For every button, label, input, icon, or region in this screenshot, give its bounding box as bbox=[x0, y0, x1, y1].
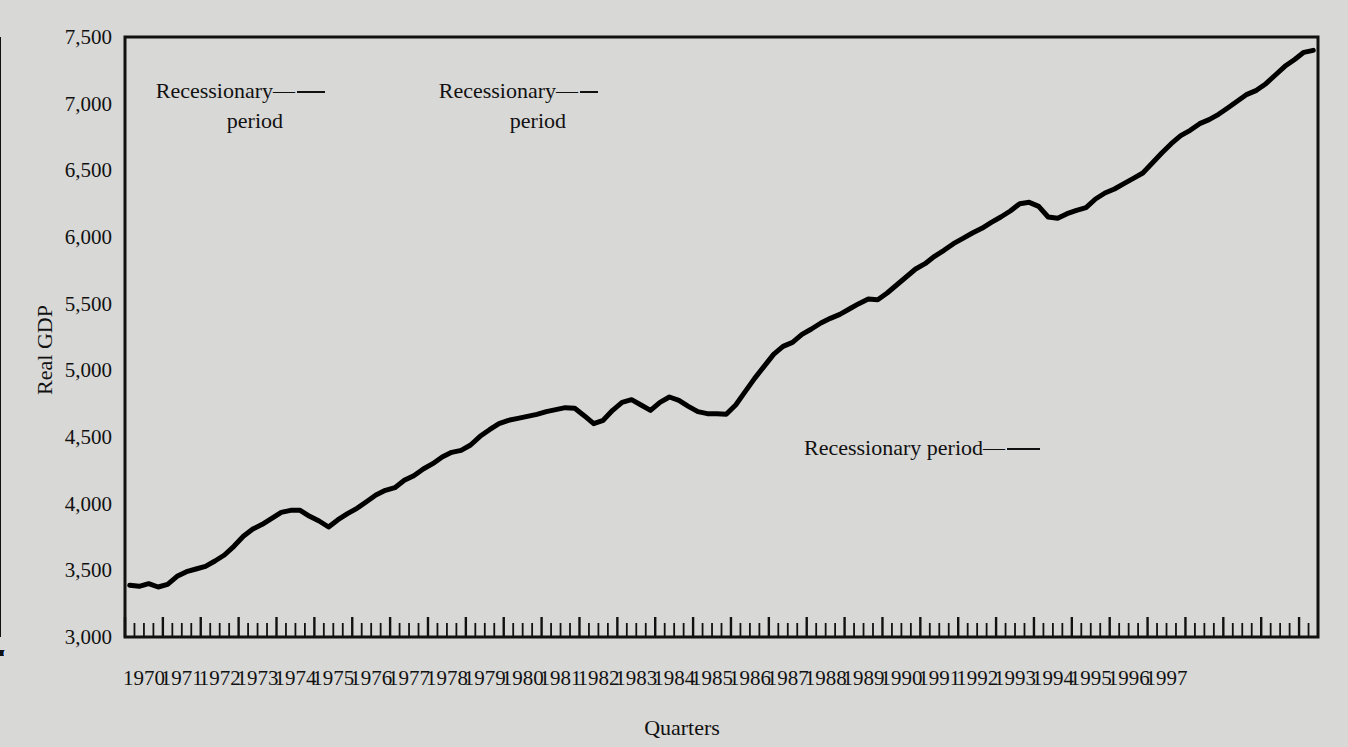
x-year-label: 1981 bbox=[540, 666, 582, 690]
recession-annotations: Recessionary—periodRecessionary—periodRe… bbox=[156, 78, 1040, 460]
x-year-label: 1975 bbox=[312, 666, 354, 690]
y-axis-ticks: 3,0003,5004,0004,5005,0005,5006,0006,500… bbox=[65, 25, 112, 649]
y-tick-label: 4,000 bbox=[65, 492, 112, 516]
x-year-label: 1979 bbox=[464, 666, 506, 690]
recession-annotation-line1: Recessionary— bbox=[439, 78, 579, 103]
recession-annotation-line1: Recessionary period— bbox=[804, 435, 1006, 460]
x-axis-ticks bbox=[125, 617, 1309, 637]
x-year-label: 1978 bbox=[426, 666, 468, 690]
gdp-data-line bbox=[130, 50, 1314, 587]
x-year-label: 1995 bbox=[1070, 666, 1112, 690]
recession-annotation-line2: period bbox=[227, 108, 283, 133]
y-tick-label: 5,000 bbox=[65, 358, 112, 382]
x-year-label: 1994 bbox=[1032, 666, 1075, 690]
x-year-label: 1997 bbox=[1146, 666, 1188, 690]
x-year-label: 1993 bbox=[994, 666, 1036, 690]
x-year-label: 1982 bbox=[577, 666, 619, 690]
x-year-label: 1971 bbox=[161, 666, 203, 690]
recession-annotation-line2: period bbox=[510, 108, 566, 133]
y-tick-label: 4,500 bbox=[65, 425, 112, 449]
x-year-label: 1987 bbox=[767, 666, 809, 690]
y-tick-label: 6,000 bbox=[65, 225, 112, 249]
y-tick-label: 7,500 bbox=[65, 25, 112, 49]
chart-figure: 3,0003,5004,0004,5005,0005,5006,0006,500… bbox=[0, 0, 1348, 747]
x-year-label: 1972 bbox=[199, 666, 241, 690]
x-axis-year-labels: 1970197119721973197419751976197719781979… bbox=[123, 666, 1188, 690]
y-tick-label: 6,500 bbox=[65, 158, 112, 182]
quarter-marks: IIIIIIIVIIIIIIIVIIIIIIVIIIIIIIVIIIIIIIVI… bbox=[0, 649, 4, 658]
gdp-line-path bbox=[130, 50, 1314, 587]
x-year-label: 1986 bbox=[729, 666, 771, 690]
x-axis-title: Quarters bbox=[644, 715, 720, 740]
x-year-label: 1974 bbox=[274, 666, 317, 690]
y-tick-label: 3,000 bbox=[65, 625, 112, 649]
recession-annotation-line1: Recessionary— bbox=[156, 78, 296, 103]
x-year-label: 1976 bbox=[350, 666, 392, 690]
x-year-label: 1980 bbox=[502, 666, 544, 690]
x-year-label: 1973 bbox=[237, 666, 279, 690]
x-year-label: 1984 bbox=[653, 666, 696, 690]
y-tick-label: 3,500 bbox=[65, 558, 112, 582]
x-year-label: 1992 bbox=[956, 666, 998, 690]
x-year-label: 1977 bbox=[388, 666, 430, 690]
x-year-label: 1970 bbox=[123, 666, 165, 690]
x-year-label: 1985 bbox=[691, 666, 733, 690]
plot-border bbox=[125, 37, 1318, 637]
x-year-label: 1996 bbox=[1108, 666, 1150, 690]
y-axis-title: Real GDP bbox=[32, 305, 57, 395]
y-tick-label: 7,000 bbox=[65, 92, 112, 116]
x-year-label: 1988 bbox=[805, 666, 847, 690]
x-year-label: 1989 bbox=[843, 666, 885, 690]
x-year-label: 1990 bbox=[880, 666, 922, 690]
x-year-label: 1983 bbox=[615, 666, 657, 690]
y-tick-label: 5,500 bbox=[65, 292, 112, 316]
x-year-label: 1991 bbox=[918, 666, 960, 690]
plot-frame bbox=[125, 37, 1318, 637]
gdp-line-chart: 3,0003,5004,0004,5005,0005,5006,0006,500… bbox=[0, 0, 1348, 747]
